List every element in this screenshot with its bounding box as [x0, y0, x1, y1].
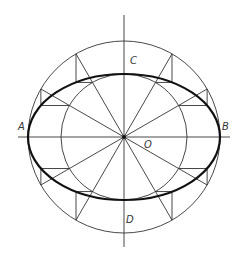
- label-o: O: [144, 140, 152, 150]
- radial-spoke: [41, 137, 124, 185]
- radial-spoke: [41, 89, 124, 137]
- radial-spoke: [124, 54, 172, 137]
- radial-spoke: [124, 89, 207, 137]
- label-c: C: [130, 56, 137, 66]
- label-d: D: [126, 215, 134, 225]
- label-a: A: [18, 122, 25, 132]
- label-b: B: [222, 122, 229, 132]
- center-point: [122, 135, 126, 139]
- radial-spoke: [76, 54, 124, 137]
- radial-spoke: [124, 137, 207, 185]
- radial-spoke: [76, 137, 124, 220]
- ellipse-construction-diagram: A B C D O: [0, 0, 242, 258]
- diagram-svg: [0, 0, 242, 258]
